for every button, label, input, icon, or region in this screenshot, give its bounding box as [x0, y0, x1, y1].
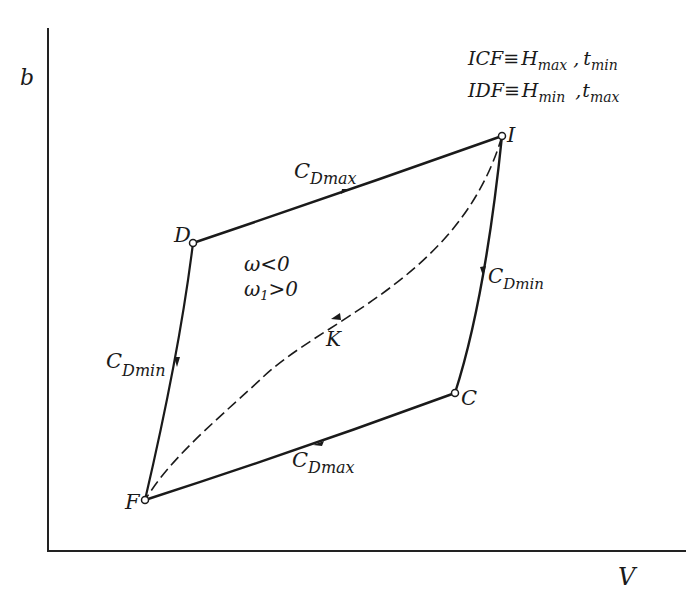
flight-envelope-diagram: b V ICF≡Hmax ,tmin IDF≡Hmin ,tmax I D C …	[0, 0, 697, 594]
arrow-icon	[341, 189, 350, 194]
segment-IC-label: CDmin	[488, 264, 544, 293]
path-C-F	[145, 393, 455, 500]
arrow-icon	[480, 266, 486, 276]
segment-ID-label: CDmax	[294, 159, 357, 188]
point-K-label: K	[325, 327, 342, 351]
condition-omega: ω<0	[244, 252, 290, 276]
segment-CF-label: CDmax	[292, 448, 355, 477]
segment-DF-label: CDmin	[106, 349, 166, 380]
legend-line-1: ICF≡Hmax ,tmin	[467, 47, 618, 73]
point-C-marker	[452, 390, 459, 397]
point-F-label: F	[124, 490, 141, 514]
path-I-K-F-dashed	[145, 136, 502, 500]
point-I-label: I	[506, 123, 516, 147]
point-C-label: C	[461, 386, 477, 410]
legend-line-2: IDF≡Hmin ,tmax	[467, 79, 620, 105]
y-axis-label: b	[20, 65, 34, 90]
point-F-marker	[142, 497, 149, 504]
point-I-marker	[499, 133, 506, 140]
x-axis-label: V	[618, 563, 638, 591]
condition-omega1: ω1>0	[244, 277, 298, 303]
point-D-label: D	[173, 223, 191, 247]
arrow-icon	[331, 313, 341, 320]
